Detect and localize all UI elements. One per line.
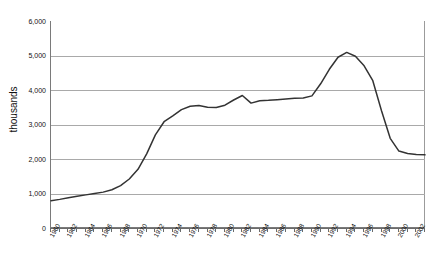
x-axis-tick-labels: 1960196219641966196819701972197419761978…: [0, 0, 439, 265]
chart-container: thousands 01,0002,0003,0004,0005,0006,00…: [0, 0, 439, 265]
